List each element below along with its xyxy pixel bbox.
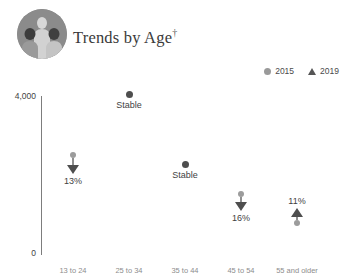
marker-group-45-to-54: 16%: [213, 191, 269, 223]
chart-header: Trends by Age†: [0, 0, 347, 66]
legend-label-2019: 2019: [320, 66, 339, 76]
change-stem: [72, 158, 74, 165]
legend-label-2015: 2015: [275, 66, 294, 76]
change-value-label: Stable: [172, 170, 198, 180]
legend-item-2019[interactable]: 2019: [308, 66, 339, 76]
x-axis-label-25-to-34: 25 to 34: [101, 266, 157, 275]
legend-item-2015[interactable]: 2015: [264, 66, 294, 76]
data-column-13-to-24[interactable]: 13% 13 to 24: [45, 88, 101, 280]
circle-marker-icon: [294, 220, 300, 226]
data-column-45-to-54[interactable]: 16% 45 to 54: [213, 88, 269, 280]
triangle-marker-icon: [67, 165, 79, 174]
triangle-marker-icon: [308, 68, 316, 75]
change-value-label: 11%: [288, 196, 305, 206]
marker-group-25-to-34: Stable: [101, 91, 157, 110]
change-value-label: 13%: [64, 176, 82, 186]
y-axis-tick-max: 4,000: [15, 91, 36, 101]
marker-group-13-to-24: 13%: [45, 152, 101, 186]
page-title-text: Trends by Age: [73, 28, 172, 47]
triangle-marker-icon: [235, 202, 247, 211]
x-axis-label-55-and-older: 55 and older: [269, 266, 325, 275]
page-title: Trends by Age†: [73, 27, 177, 48]
stable-marker-icon: [182, 161, 189, 168]
x-axis-label-45-to-54: 45 to 54: [213, 266, 269, 275]
x-axis-label-13-to-24: 13 to 24: [45, 266, 101, 275]
triangle-marker-icon: [291, 208, 303, 217]
stable-marker-icon: [126, 91, 133, 98]
change-value-label: 16%: [232, 213, 250, 223]
data-column-55-and-older[interactable]: 11% 55 and older: [269, 88, 325, 280]
title-footnote-marker: †: [172, 27, 177, 38]
marker-group-55-and-older: 11%: [269, 196, 325, 226]
marker-group-35-to-44: Stable: [157, 161, 213, 180]
data-column-25-to-34[interactable]: Stable 25 to 34: [101, 88, 157, 280]
family-group-avatar-icon: [17, 9, 67, 59]
x-axis-label-35-to-44: 35 to 44: [157, 266, 213, 275]
chart-plot-area: 4,000 0 13% 13 to 24 Stable 25 to 34 Sta…: [0, 88, 347, 280]
circle-marker-icon: [264, 68, 271, 75]
y-axis-tick-min: 0: [31, 248, 36, 258]
data-column-35-to-44[interactable]: Stable 35 to 44: [157, 88, 213, 280]
change-value-label: Stable: [116, 100, 142, 110]
chart-legend: 2015 2019: [264, 66, 339, 76]
y-axis-line: [41, 96, 42, 255]
